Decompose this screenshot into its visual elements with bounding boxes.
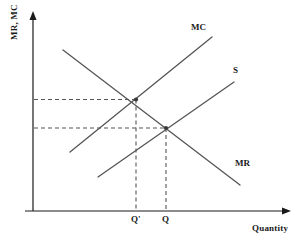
curves-group	[63, 37, 240, 185]
intersection-point-mc-mr	[134, 97, 138, 101]
intersection-points-group	[134, 97, 168, 130]
y-axis-label: MR, MC	[10, 4, 19, 40]
curve-label-mc: MC	[191, 23, 206, 32]
curve-label-mr: MR	[235, 159, 250, 168]
x-axis-label: Quantity	[252, 224, 288, 233]
x-tick-label-q-prime: Q'	[131, 215, 141, 224]
guide-lines-group	[34, 100, 166, 211]
y-axis-arrowhead	[30, 11, 37, 20]
economics-diagram: MR, MC Quantity MC S MR Q' Q	[0, 0, 305, 243]
intersection-point-s-mr	[164, 126, 168, 130]
curve-mr	[63, 50, 240, 185]
x-axis-arrowhead	[282, 208, 291, 215]
x-tick-label-q: Q	[162, 215, 169, 224]
axes-group	[25, 11, 291, 215]
curve-label-s: S	[233, 66, 238, 75]
diagram-canvas	[0, 0, 305, 243]
curve-mc	[70, 37, 212, 152]
